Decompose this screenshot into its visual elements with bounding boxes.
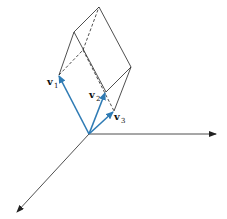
label-v3: v 3 <box>113 111 125 125</box>
label-v1: v 1 <box>46 76 58 90</box>
label-v2: v 2 <box>88 89 100 103</box>
vector-v1 <box>59 76 89 134</box>
parallelepiped-hidden-edges <box>59 7 114 111</box>
svg-text:1: 1 <box>54 82 58 90</box>
svg-text:v: v <box>46 76 54 87</box>
svg-text:2: 2 <box>96 95 100 103</box>
parallelepiped-diagram: v 1 v 2 v 3 <box>0 0 227 219</box>
svg-text:v: v <box>113 111 121 122</box>
svg-text:v: v <box>88 89 96 100</box>
svg-text:3: 3 <box>121 117 125 125</box>
y-axis <box>17 134 89 212</box>
